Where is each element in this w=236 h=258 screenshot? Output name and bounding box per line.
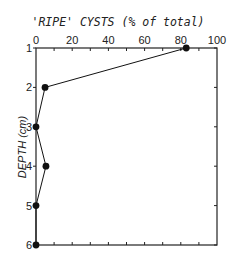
x-tick-label: 100: [208, 34, 226, 46]
data-point-marker: [33, 242, 40, 249]
x-tick-label: 40: [102, 34, 114, 46]
y-tick-label: 1: [26, 42, 32, 54]
x-tick-label: 0: [33, 34, 39, 46]
data-point-marker: [33, 202, 40, 209]
data-points: [33, 45, 190, 249]
depth-profile-chart: 'RIPE' CYSTS (% of total) 020406080100 1…: [0, 0, 236, 258]
x-tick-label: 60: [138, 34, 150, 46]
data-point-marker: [183, 45, 190, 52]
y-tick-label: 5: [26, 200, 32, 212]
y-tick-label: 6: [26, 239, 32, 251]
y-axis-label: DEPTH (cm): [16, 116, 28, 179]
data-point-marker: [42, 84, 49, 91]
data-point-marker: [33, 123, 40, 130]
x-tick-label: 20: [66, 34, 78, 46]
data-point-marker: [43, 163, 50, 170]
chart-title: 'RIPE' CYSTS (% of total): [31, 15, 204, 29]
x-axis-ticks: 020406080100: [33, 34, 226, 245]
x-tick-label: 80: [175, 34, 187, 46]
y-axis-ticks: 123456: [26, 42, 217, 251]
y-tick-label: 2: [26, 81, 32, 93]
plot-frame: [36, 48, 217, 245]
data-line: [36, 48, 186, 245]
